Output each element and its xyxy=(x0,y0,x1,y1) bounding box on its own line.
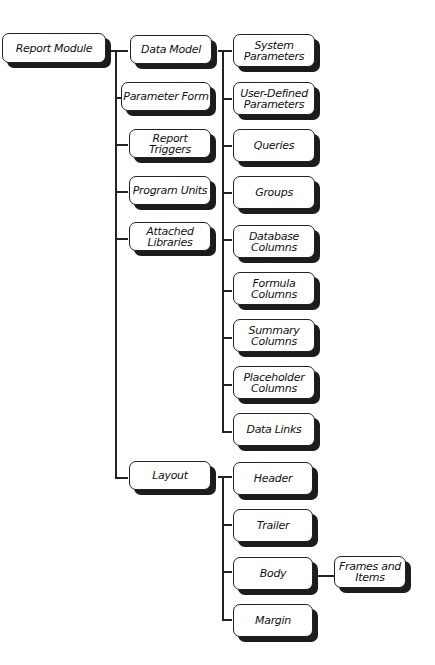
connector xyxy=(222,476,224,620)
node-program-units: Program Units xyxy=(129,176,211,205)
node-report-triggers: Report Triggers xyxy=(129,129,211,158)
node-system-parameters: System Parameters xyxy=(233,34,315,67)
connector xyxy=(318,575,335,577)
node-user-defined-parameters: User-Defined Parameters xyxy=(233,82,315,115)
node-summary-columns: Summary Columns xyxy=(233,319,315,352)
connector xyxy=(222,192,232,194)
connector xyxy=(222,239,232,241)
node-header: Header xyxy=(233,462,313,495)
node-parameter-form: Parameter Form xyxy=(121,82,211,111)
node-data-links: Data Links xyxy=(233,413,315,446)
connector xyxy=(115,191,128,193)
connector xyxy=(222,524,232,526)
connector xyxy=(115,144,128,146)
node-data-model: Data Model xyxy=(130,35,212,64)
connector xyxy=(115,238,128,240)
connector xyxy=(106,50,128,52)
connector xyxy=(218,476,232,478)
node-trailer: Trailer xyxy=(233,509,313,542)
node-formula-columns: Formula Columns xyxy=(233,272,315,305)
connector xyxy=(222,337,232,339)
connector xyxy=(222,384,232,386)
connector xyxy=(222,619,232,621)
node-report-module: Report Module xyxy=(2,33,106,63)
connector xyxy=(222,571,232,573)
node-queries: Queries xyxy=(233,129,315,162)
connector xyxy=(222,145,232,147)
node-groups: Groups xyxy=(233,176,315,209)
node-body: Body xyxy=(233,557,313,590)
node-placeholder-columns: Placeholder Columns xyxy=(233,366,315,399)
connector xyxy=(222,98,232,100)
node-margin: Margin xyxy=(233,604,313,637)
connector xyxy=(218,50,232,52)
node-frames-and-items: Frames and Items xyxy=(334,556,406,588)
node-attached-libraries: Attached Libraries xyxy=(129,222,211,251)
node-layout: Layout xyxy=(129,461,211,490)
connector xyxy=(115,50,117,478)
node-database-columns: Database Columns xyxy=(233,225,315,258)
connector xyxy=(222,431,232,433)
connector xyxy=(115,477,128,479)
connector xyxy=(222,290,232,292)
connector xyxy=(222,50,224,432)
